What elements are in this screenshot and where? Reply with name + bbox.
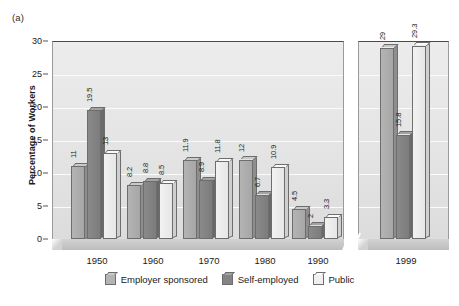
bar-face xyxy=(292,209,306,239)
bar: 15.8 xyxy=(396,135,410,239)
y-tick-label: 25 xyxy=(32,69,42,79)
x-tick-label: 1970 xyxy=(198,255,219,266)
y-tick-label: 30 xyxy=(32,36,42,46)
bar-group: 2915.829.3 xyxy=(359,42,448,239)
plot-area: 1119.5138.28.88.511.98.911.8126.710.94.5… xyxy=(52,41,447,239)
x-tick-label: 1950 xyxy=(86,255,107,266)
bar-top xyxy=(325,214,342,217)
bar-group: 4.523.3 xyxy=(53,42,343,239)
legend-item[interactable]: Self-employed xyxy=(222,274,299,285)
bar-value-label: 4.5 xyxy=(290,191,299,201)
legend-label: Public xyxy=(329,274,355,285)
y-tick-mark xyxy=(43,140,48,141)
bar: 4.5 xyxy=(292,209,306,239)
legend-label: Employer sponsored xyxy=(121,274,208,285)
x-tick-label: 1990 xyxy=(307,255,328,266)
bar: 2 xyxy=(308,226,322,239)
y-tick-label: 15 xyxy=(32,135,42,145)
bar-side xyxy=(338,214,342,238)
y-tick-mark xyxy=(43,206,48,207)
y-tick-mark xyxy=(43,173,48,174)
y-tick-mark xyxy=(43,74,48,75)
legend-item[interactable]: Employer sponsored xyxy=(105,274,208,285)
bar-value-label: 29 xyxy=(378,31,387,39)
legend-swatch-icon xyxy=(222,274,233,285)
bar-value-label: 15.8 xyxy=(394,113,403,127)
chart-legend: Employer sponsoredSelf-employedPublic xyxy=(0,274,459,285)
bar-face xyxy=(380,48,394,239)
y-tick-mark xyxy=(43,107,48,108)
bar: 29 xyxy=(380,48,394,239)
bar: 29.3 xyxy=(412,46,426,239)
x-tick-label: 1980 xyxy=(254,255,275,266)
bar-top xyxy=(293,206,310,209)
bar-value-label: 29.3 xyxy=(410,23,419,37)
x-axis-labels: 195019601970198019901999 xyxy=(0,255,459,271)
x-tick-label: 1999 xyxy=(395,255,416,266)
y-axis: 051015202530 xyxy=(24,41,48,238)
bar-top xyxy=(413,42,430,45)
y-tick-mark xyxy=(43,41,48,42)
y-tick-label: 0 xyxy=(37,234,42,244)
chart-panel-1999: 2915.829.3 xyxy=(358,41,449,239)
y-tick-label: 20 xyxy=(32,102,42,112)
legend-swatch-icon xyxy=(313,274,324,285)
baseline-shelf-right xyxy=(358,239,449,250)
bar-value-label: 2 xyxy=(306,214,315,218)
bar-face xyxy=(308,226,322,239)
y-tick-label: 5 xyxy=(37,201,42,211)
bar-side xyxy=(426,43,430,238)
bar-top xyxy=(381,44,398,47)
bar-face xyxy=(324,217,338,239)
bar-face xyxy=(412,46,426,239)
legend-item[interactable]: Public xyxy=(313,274,355,285)
y-tick-mark xyxy=(43,239,48,240)
x-tick-label: 1960 xyxy=(142,255,163,266)
bar-face xyxy=(396,135,410,239)
y-tick-label: 10 xyxy=(32,168,42,178)
legend-swatch-icon xyxy=(105,274,116,285)
legend-label: Self-employed xyxy=(238,274,299,285)
bar: 3.3 xyxy=(324,217,338,239)
chart-panel-main: 1119.5138.28.88.511.98.911.8126.710.94.5… xyxy=(52,41,344,239)
bar-value-label: 3.3 xyxy=(322,199,331,209)
baseline-shelf-main xyxy=(52,239,344,250)
panel-label: (a) xyxy=(12,12,24,23)
